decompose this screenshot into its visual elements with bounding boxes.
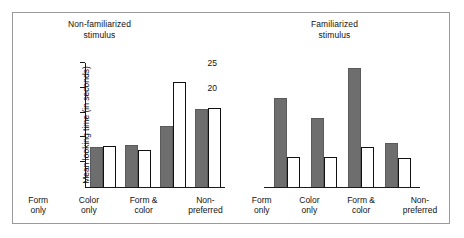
bar-open	[173, 82, 186, 187]
bar-group	[385, 63, 411, 187]
bar-open	[398, 158, 411, 187]
category-labels-familiarized: Form onlyColor onlyForm & colorNon- pref…	[238, 195, 451, 215]
bar-filled	[160, 126, 173, 187]
bar-group	[274, 63, 300, 187]
bar-group	[195, 63, 221, 187]
category-labels-non-familiarized: Form onlyColor onlyForm & colorNon- pref…	[13, 195, 238, 215]
bar-filled	[125, 145, 138, 187]
bar-filled	[90, 147, 103, 187]
category-label: Form & color	[130, 195, 158, 215]
bar-open	[103, 146, 116, 187]
plot-area-familiarized	[268, 63, 416, 187]
bar-filled	[385, 143, 398, 187]
category-label: Non- preferred	[188, 195, 223, 215]
category-label: Form only	[252, 195, 272, 215]
bar-open	[361, 147, 374, 187]
panel-non-familiarized: Non-familiarized stimulus Mean looking t…	[13, 13, 238, 223]
bar-open	[138, 150, 151, 187]
bar-open	[208, 108, 221, 187]
panel-title-familiarized: Familiarized stimulus	[228, 19, 441, 40]
bar-group	[125, 63, 151, 187]
bar-group	[311, 63, 337, 187]
category-label: Color only	[79, 195, 99, 215]
bar-filled	[311, 118, 324, 187]
bar-filled	[348, 68, 361, 187]
bar-groups-familiarized	[268, 63, 416, 187]
bar-open	[324, 157, 337, 187]
bar-group	[90, 63, 116, 187]
category-label: Form only	[28, 195, 48, 215]
figure-frame: Non-familiarized stimulus Mean looking t…	[12, 12, 450, 224]
bar-filled	[274, 98, 287, 187]
bar-open	[287, 157, 300, 187]
category-label: Color only	[299, 195, 319, 215]
plot-area-non-familiarized: Mean looking time (in seconds) 510152025	[85, 63, 225, 187]
bar-group	[348, 63, 374, 187]
x-axis-baseline	[264, 187, 420, 188]
category-label: Non- preferred	[403, 195, 438, 215]
x-axis-baseline	[85, 187, 225, 188]
bar-group	[160, 63, 186, 187]
bar-filled	[195, 109, 208, 187]
bar-groups-non-familiarized	[85, 63, 225, 187]
panel-familiarized: Familiarized stimulus Form onlyColor onl…	[238, 13, 451, 223]
category-label: Form & color	[347, 195, 375, 215]
panel-title-non-familiarized: Non-familiarized stimulus	[0, 19, 212, 40]
